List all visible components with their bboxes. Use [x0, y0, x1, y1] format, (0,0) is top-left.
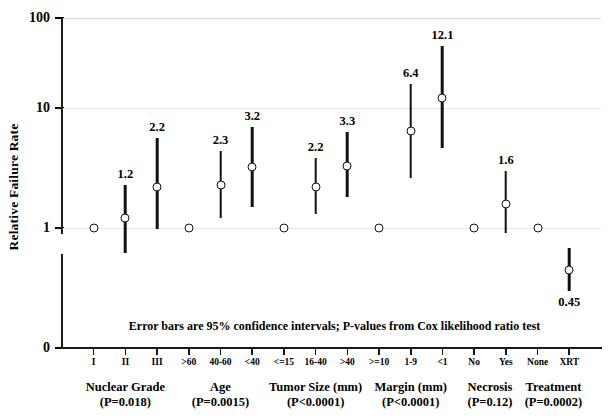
x-category-label: I — [92, 357, 96, 367]
group-name: Treatment — [525, 380, 582, 395]
group-pvalue: (P=0.0002) — [525, 395, 582, 410]
x-tick-mark — [347, 348, 349, 355]
data-point-marker — [121, 214, 130, 223]
x-category-label: No — [468, 357, 480, 367]
x-category-label: 16-40 — [305, 357, 327, 367]
x-category-label: II — [122, 357, 129, 367]
group-label: Age(P=0.0015) — [192, 380, 249, 411]
x-tick-mark — [442, 348, 444, 355]
group-label: Necrosis(P=0.12) — [468, 380, 513, 411]
x-tick-mark — [93, 348, 95, 355]
data-point-marker — [153, 182, 162, 191]
x-category-label: >=10 — [369, 357, 389, 367]
reference-point-marker — [184, 224, 193, 233]
x-tick-mark — [568, 348, 570, 355]
value-label: 2.2 — [308, 140, 324, 155]
reference-point-marker — [375, 224, 384, 233]
data-point-marker — [343, 161, 352, 170]
value-label: 6.4 — [403, 66, 419, 81]
value-label: 3.3 — [340, 114, 356, 129]
group-label: Tumor Size (mm)(P<0.0001) — [269, 380, 362, 411]
x-tick-mark — [537, 348, 539, 355]
x-tick-mark — [283, 348, 285, 355]
x-tick-mark — [188, 348, 190, 355]
value-label: 12.1 — [432, 28, 454, 43]
group-pvalue: (P=0.0015) — [192, 395, 249, 410]
chart-figure: Relative Failure Rate 1001010 1.22.22.33… — [0, 0, 615, 418]
value-label: 3.2 — [244, 109, 260, 124]
x-tick-mark — [220, 348, 222, 355]
value-label: 2.3 — [213, 133, 229, 148]
group-label: Nuclear Grade(P=0.018) — [86, 380, 165, 411]
group-name: Tumor Size (mm) — [269, 380, 362, 395]
x-category-label: <40 — [245, 357, 260, 367]
chart-annotation: Error bars are 95% confidence intervals;… — [129, 319, 540, 334]
x-category-label: XRT — [559, 357, 579, 367]
group-pvalue: (P=0.12) — [468, 395, 513, 410]
value-label: 0.45 — [558, 295, 580, 310]
x-tick-mark — [410, 348, 412, 355]
data-point-marker — [501, 199, 510, 208]
x-category-label: >60 — [181, 357, 196, 367]
x-category-label: >40 — [340, 357, 355, 367]
x-category-label: 40-60 — [209, 357, 231, 367]
x-category-label: <1 — [437, 357, 447, 367]
x-tick-mark — [473, 348, 475, 355]
x-tick-mark — [378, 348, 380, 355]
value-label: 1.2 — [118, 167, 134, 182]
reference-point-marker — [470, 224, 479, 233]
x-tick-mark — [251, 348, 253, 355]
x-tick-mark — [156, 348, 158, 355]
data-point-marker — [248, 163, 257, 172]
data-point-marker — [216, 180, 225, 189]
value-label: 2.2 — [149, 120, 165, 135]
data-point-marker — [311, 182, 320, 191]
x-category-label: 1-9 — [404, 357, 417, 367]
group-pvalue: (P=0.018) — [86, 395, 165, 410]
x-category-label: III — [152, 357, 163, 367]
data-point-marker — [438, 94, 447, 103]
group-name: Margin (mm) — [374, 380, 447, 395]
data-series: 1.22.22.33.22.23.36.412.11.60.45 — [0, 0, 615, 418]
group-label: Margin (mm)(P<0.0001) — [374, 380, 447, 411]
reference-point-marker — [89, 224, 98, 233]
value-label: 1.6 — [498, 153, 514, 168]
x-tick-mark — [315, 348, 317, 355]
x-category-label: <=15 — [274, 357, 294, 367]
reference-point-marker — [279, 224, 288, 233]
group-pvalue: (P<0.0001) — [374, 395, 447, 410]
x-category-label: None — [527, 357, 548, 367]
data-point-marker — [406, 127, 415, 136]
group-name: Age — [192, 380, 249, 395]
group-name: Necrosis — [468, 380, 513, 395]
x-tick-mark — [505, 348, 507, 355]
x-category-label: Yes — [499, 357, 513, 367]
group-pvalue: (P<0.0001) — [269, 395, 362, 410]
x-tick-mark — [125, 348, 127, 355]
group-label: Treatment(P=0.0002) — [525, 380, 582, 411]
group-name: Nuclear Grade — [86, 380, 165, 395]
data-point-marker — [565, 265, 574, 274]
reference-point-marker — [533, 224, 542, 233]
